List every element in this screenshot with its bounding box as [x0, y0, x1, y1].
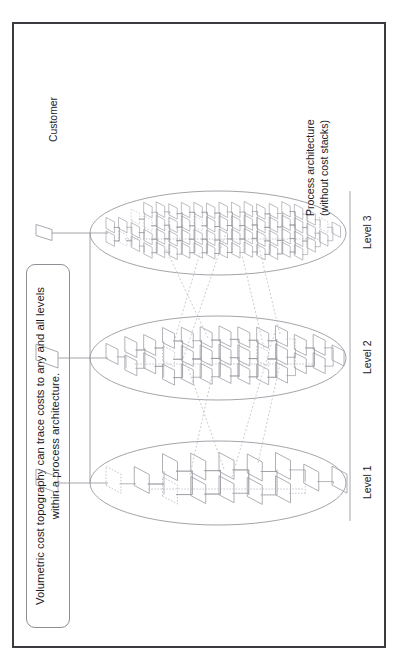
- process-node: [144, 243, 153, 259]
- process-node: [294, 353, 306, 374]
- process-node: [257, 244, 266, 260]
- process-node: [125, 355, 137, 376]
- process-node: [244, 215, 253, 231]
- process-node: [219, 452, 234, 479]
- process-node: [194, 216, 203, 232]
- process-node: [247, 477, 262, 504]
- process-node: [181, 202, 190, 218]
- caption-line-1: Process architecture: [304, 36, 318, 216]
- process-node: [282, 215, 291, 231]
- process-node: [257, 217, 266, 233]
- process-node: [181, 243, 190, 259]
- process-node: [232, 216, 241, 232]
- process-node: [191, 477, 206, 504]
- process-node: [238, 363, 250, 384]
- process-node: [134, 467, 149, 494]
- process-node: [257, 364, 269, 385]
- process-node: [36, 344, 58, 368]
- process-node: [36, 225, 52, 241]
- process-node: [294, 245, 303, 261]
- process-node: [232, 229, 241, 245]
- process-node: [319, 231, 328, 247]
- process-node: [276, 452, 291, 479]
- cross-level-trace-1: [190, 376, 212, 475]
- process-node: [144, 353, 156, 374]
- level-envelope-ellipse: [90, 316, 346, 400]
- level-group-2: [36, 316, 346, 400]
- customer-label: Customer: [48, 97, 59, 142]
- level-group-3: [36, 191, 346, 275]
- process-node: [307, 223, 316, 239]
- process-node: [219, 362, 231, 383]
- process-node: [181, 229, 190, 245]
- process-node: [156, 215, 165, 231]
- process-node: [163, 454, 178, 481]
- process-node: [244, 242, 253, 258]
- process-node: [131, 236, 140, 252]
- process-node: [181, 364, 193, 385]
- process-node: [304, 464, 319, 491]
- process-node: [191, 453, 206, 480]
- process-node: [106, 466, 121, 493]
- process-node: [156, 242, 165, 258]
- level-label-3: Level 3: [362, 215, 373, 249]
- process-node: [282, 228, 291, 244]
- cross-level-trace-3: [174, 253, 200, 342]
- process-node: [219, 216, 228, 232]
- process-node: [219, 344, 231, 365]
- process-node: [238, 345, 250, 366]
- process-node: [257, 204, 266, 220]
- process-node: [313, 353, 325, 374]
- process-node: [269, 203, 278, 219]
- process-node: [36, 469, 58, 493]
- process-node: [247, 454, 262, 481]
- process-node: [200, 363, 212, 384]
- process-node: [194, 202, 203, 218]
- process-node: [276, 325, 288, 346]
- process-node: [181, 327, 193, 348]
- process-node: [269, 244, 278, 260]
- diagram-stage: Volumetric cost topography can trace cos…: [12, 22, 386, 648]
- process-node: [294, 204, 303, 220]
- process-node: [194, 229, 203, 245]
- process-node: [206, 203, 215, 219]
- process-node: [181, 345, 193, 366]
- process-node: [125, 337, 137, 358]
- process-node: [163, 327, 175, 348]
- cross-level-trace-5: [242, 255, 264, 348]
- process-node: [131, 209, 140, 225]
- process-node: [269, 230, 278, 246]
- level-label-2: Level 2: [362, 340, 373, 374]
- process-node: [282, 242, 291, 258]
- process-node: [232, 243, 241, 259]
- process-node: [269, 217, 278, 233]
- process-node: [106, 217, 115, 233]
- diagram-caption: Process architecture (without cost stack…: [304, 36, 331, 216]
- process-node: [144, 216, 153, 232]
- process-node: [200, 345, 212, 366]
- process-node: [156, 202, 165, 218]
- process-node: [144, 202, 153, 218]
- process-node: [106, 343, 118, 364]
- process-node: [219, 242, 228, 258]
- process-node: [319, 217, 328, 233]
- process-node: [206, 217, 215, 233]
- process-node: [144, 229, 153, 245]
- process-node: [194, 243, 203, 259]
- process-node: [119, 231, 128, 247]
- process-node: [232, 202, 241, 218]
- process-node: [181, 216, 190, 232]
- process-node: [219, 326, 231, 347]
- process-node: [169, 231, 178, 247]
- process-node: [294, 218, 303, 234]
- caption-line-2: (without cost stacks): [318, 36, 332, 216]
- level-envelope-ellipse: [90, 441, 346, 525]
- process-node: [276, 362, 288, 383]
- process-node: [282, 202, 291, 218]
- process-node: [144, 335, 156, 356]
- process-node: [119, 217, 128, 233]
- cross-level-trace-8: [232, 328, 276, 477]
- process-node: [294, 334, 306, 355]
- level-label-1: Level 1: [362, 465, 373, 499]
- process-node: [257, 345, 269, 366]
